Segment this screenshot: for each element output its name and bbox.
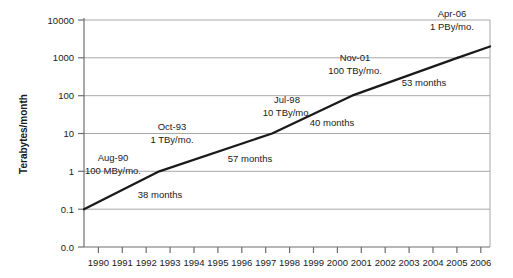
point-label-apr-06: Apr-06 [438, 8, 467, 19]
x-tick-label-1: 1991 [112, 257, 133, 268]
chart-container: 10000 1000 100 10 1 0.1 0.0 Terabytes/mo… [0, 0, 513, 278]
x-tick-label-4: 1994 [183, 257, 204, 268]
y-axis-title: Terabytes/month [18, 94, 29, 174]
y-axis-ticks [78, 20, 84, 247]
x-tick-label-2: 1992 [136, 257, 157, 268]
point-value-nov-01: 100 TBy/mo. [328, 65, 382, 76]
y-tick-label-4: 1 [69, 166, 74, 177]
x-tick-label-5: 1995 [207, 257, 228, 268]
y-tick-label-5: 0.1 [61, 204, 74, 215]
interval-label-57-months: 57 months [228, 153, 273, 164]
x-axis-ticks [98, 247, 480, 253]
point-value-apr-06: 1 PBy/mo. [430, 21, 474, 32]
x-tick-label-10: 2000 [327, 257, 348, 268]
x-tick-label-6: 1996 [231, 257, 252, 268]
y-tick-label-0: 10000 [48, 15, 74, 26]
y-axis-tick-labels: 10000 1000 100 10 1 0.1 0.0 [48, 15, 74, 253]
y-tick-label-6: 0.0 [61, 242, 74, 253]
x-tick-label-7: 1997 [255, 257, 276, 268]
line-chart: 10000 1000 100 10 1 0.1 0.0 Terabytes/mo… [0, 0, 513, 278]
x-axis-tick-labels: 1990 1991 1992 1993 1994 1995 1996 1997 … [88, 257, 492, 268]
x-tick-label-3: 1993 [160, 257, 181, 268]
interval-label-53-months: 53 months [402, 77, 447, 88]
x-tick-label-15: 2005 [446, 257, 467, 268]
x-tick-label-9: 1999 [303, 257, 324, 268]
point-label-oct-93: Oct-93 [158, 121, 187, 132]
x-tick-label-13: 2003 [399, 257, 420, 268]
y-tick-label-2: 100 [58, 90, 74, 101]
x-tick-label-16: 2006 [470, 257, 491, 268]
interval-label-40-months: 40 months [310, 117, 355, 128]
interval-label-38-months: 38 months [138, 189, 183, 200]
y-tick-label-3: 10 [63, 128, 74, 139]
point-label-nov-01: Nov-01 [340, 52, 371, 63]
point-value-jul-98: 10 TBy/mo. [263, 107, 311, 118]
y-tick-label-1: 1000 [53, 52, 74, 63]
x-tick-label-0: 1990 [88, 257, 109, 268]
point-label-aug-90: Aug-90 [98, 152, 129, 163]
x-tick-label-12: 2002 [375, 257, 396, 268]
x-tick-label-8: 1998 [279, 257, 300, 268]
point-value-oct-93: 1 TBy/mo. [150, 134, 193, 145]
point-label-jul-98: Jul-98 [274, 94, 300, 105]
point-value-aug-90: 100 MBy/mo. [85, 165, 141, 176]
x-tick-label-11: 2001 [351, 257, 372, 268]
x-tick-label-14: 2004 [422, 257, 443, 268]
